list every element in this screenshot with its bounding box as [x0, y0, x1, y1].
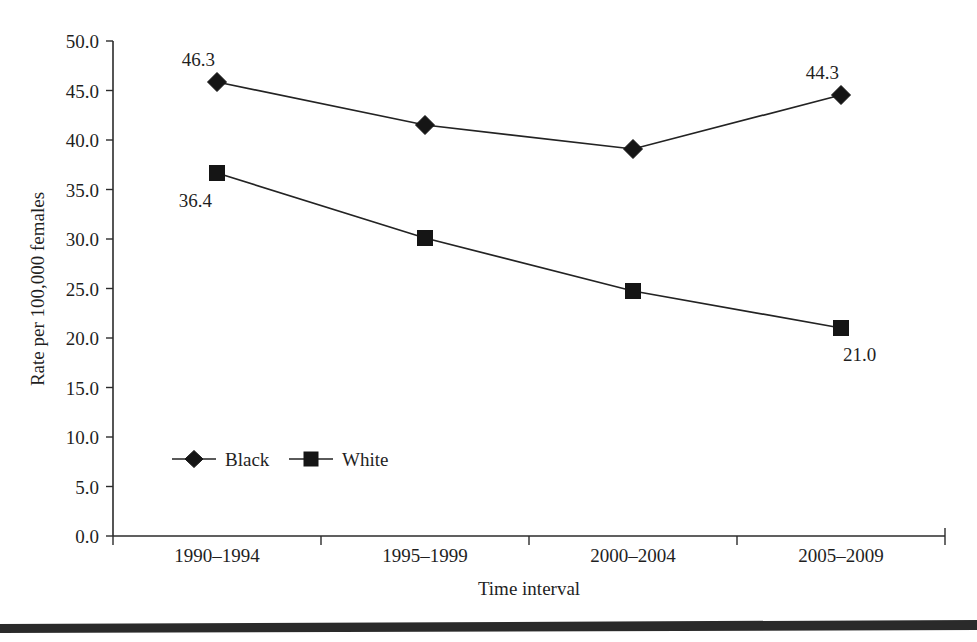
- legend-square-icon: [304, 452, 318, 466]
- marker-white-1990-1994: [210, 166, 225, 181]
- y-tick-label-10: 10.0: [66, 427, 99, 448]
- y-axis-title: Rate per 100,000 females: [27, 192, 48, 386]
- y-tick-label-30: 30.0: [66, 229, 99, 250]
- line-chart: 0.0 5.0 10.0 15.0 20.0 25.0 30.0 35.0 40…: [0, 0, 977, 642]
- x-tick-label-2000-2004: 2000–2004: [590, 545, 676, 566]
- marker-white-1995-1999: [418, 231, 433, 246]
- y-tick-label-50: 50.0: [66, 31, 99, 52]
- y-tick-label-15: 15.0: [66, 378, 99, 399]
- x-tick-label-1990-1994: 1990–1994: [174, 545, 260, 566]
- x-axis-title: Time interval: [478, 578, 580, 599]
- data-label-white-last: 21.0: [843, 344, 876, 365]
- y-tick-label-35: 35.0: [66, 180, 99, 201]
- data-label-black-first: 46.3: [182, 49, 215, 70]
- y-tick-label-40: 40.0: [66, 130, 99, 151]
- y-tick-label-5: 5.0: [75, 477, 99, 498]
- y-tick-label-0: 0.0: [75, 526, 99, 547]
- data-label-black-last: 44.3: [806, 62, 839, 83]
- legend-label-black: Black: [225, 449, 270, 470]
- y-tick-label-25: 25.0: [66, 279, 99, 300]
- x-tick-label-1995-1999: 1995–1999: [382, 545, 468, 566]
- y-tick-label-45: 45.0: [66, 81, 99, 102]
- y-tick-label-20: 20.0: [66, 328, 99, 349]
- legend-label-white: White: [342, 449, 388, 470]
- marker-white-2000-2004: [626, 284, 641, 299]
- x-tick-label-2005-2009: 2005–2009: [798, 545, 884, 566]
- marker-white-2005-2009: [834, 321, 849, 336]
- data-label-white-first: 36.4: [179, 190, 213, 211]
- figure-container: 0.0 5.0 10.0 15.0 20.0 25.0 30.0 35.0 40…: [0, 0, 977, 642]
